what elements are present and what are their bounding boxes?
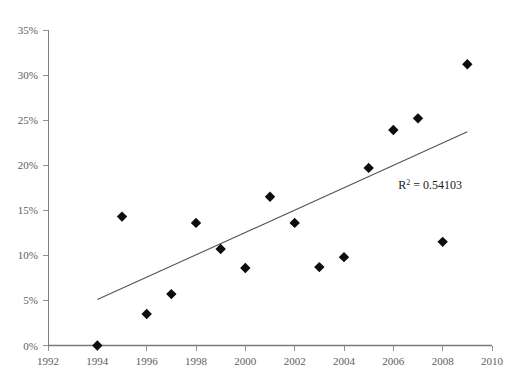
data-point xyxy=(413,113,423,123)
trendline xyxy=(97,132,467,300)
x-tick-label: 1998 xyxy=(185,355,208,367)
y-tick-label: 30% xyxy=(18,69,38,81)
chart-plot-area: 0%5%10%15%20%25%30%35% 19921994199619982… xyxy=(0,0,516,381)
x-tick-label: 2006 xyxy=(382,355,405,367)
y-axis-tick-labels: 0%5%10%15%20%25%30%35% xyxy=(18,24,38,352)
x-axis-ticks xyxy=(48,346,492,352)
x-tick-label: 2010 xyxy=(481,355,504,367)
data-point xyxy=(92,340,102,350)
x-tick-label: 2002 xyxy=(284,355,306,367)
y-tick-label: 20% xyxy=(18,159,38,171)
y-tick-label: 35% xyxy=(18,24,38,36)
data-point xyxy=(141,309,151,319)
y-tick-label: 10% xyxy=(18,249,38,261)
data-point xyxy=(117,211,127,221)
y-tick-label: 0% xyxy=(23,340,38,352)
data-point xyxy=(265,192,275,202)
scatter-chart: 0%5%10%15%20%25%30%35% 19921994199619982… xyxy=(0,0,516,381)
x-tick-label: 2008 xyxy=(432,355,455,367)
x-tick-label: 1992 xyxy=(37,355,59,367)
x-tick-label: 1996 xyxy=(136,355,159,367)
y-tick-label: 5% xyxy=(23,294,38,306)
data-point xyxy=(437,237,447,247)
data-point xyxy=(191,218,201,228)
data-point xyxy=(339,252,349,262)
data-point xyxy=(289,218,299,228)
x-tick-label: 2000 xyxy=(234,355,257,367)
data-point-series xyxy=(92,59,472,351)
data-point xyxy=(462,59,472,69)
data-point xyxy=(388,125,398,135)
x-axis-tick-labels: 1992199419961998200020022004200620082010 xyxy=(37,355,504,367)
data-point xyxy=(166,289,176,299)
y-tick-label: 15% xyxy=(18,204,38,216)
data-point xyxy=(240,263,250,273)
x-tick-label: 2004 xyxy=(333,355,356,367)
y-axis-ticks xyxy=(43,30,49,346)
r-squared-annotation: R2 = 0.54103 xyxy=(398,178,462,192)
data-point xyxy=(314,262,324,272)
y-tick-label: 25% xyxy=(18,114,38,126)
data-point xyxy=(363,163,373,173)
x-tick-label: 1994 xyxy=(86,355,109,367)
